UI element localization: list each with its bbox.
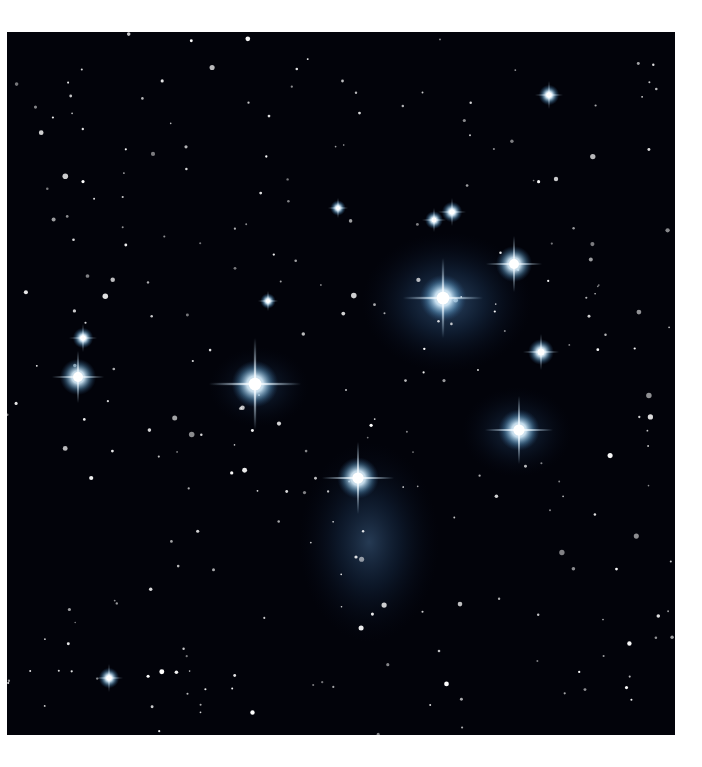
starfield-image	[7, 32, 675, 735]
pleiades-star-cluster-photo	[7, 32, 675, 735]
